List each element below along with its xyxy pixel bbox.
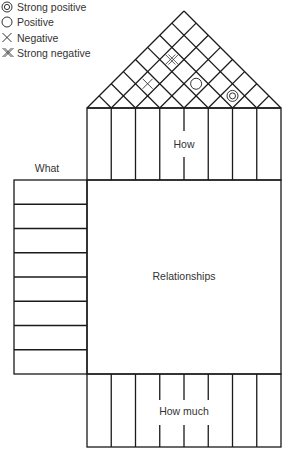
legend-label-strong-positive: Strong positive: [17, 1, 87, 13]
roof-correlation-matrix: [87, 11, 281, 108]
relationships-matrix: Relationships: [87, 180, 281, 374]
negative-icon: [143, 79, 153, 89]
how-section: How: [87, 108, 281, 180]
what-label: What: [35, 162, 60, 174]
strong-negative-icon: [165, 55, 178, 65]
what-section: What: [14, 162, 87, 374]
positive-icon: [191, 78, 202, 89]
legend-label-negative: Negative: [17, 32, 59, 44]
how-much-section: How much: [87, 374, 281, 447]
strong-positive-icon: [227, 90, 238, 101]
strong-negative-icon: [3, 48, 14, 57]
legend-label-strong-negative: Strong negative: [17, 47, 91, 59]
strong-positive-icon: [2, 2, 12, 12]
relationships-label: Relationships: [152, 270, 215, 282]
house-of-quality-diagram: Strong positive Positive Negative Strong…: [0, 0, 290, 459]
negative-icon: [3, 33, 12, 42]
how-label: How: [173, 138, 194, 150]
positive-icon: [2, 17, 12, 27]
legend-label-positive: Positive: [17, 16, 54, 28]
how-much-label: How much: [159, 405, 209, 417]
legend: Strong positive Positive Negative Strong…: [2, 1, 91, 59]
